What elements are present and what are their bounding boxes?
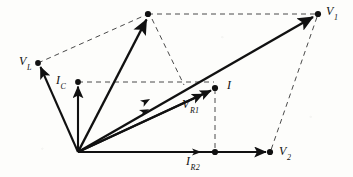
dash-vl-apex xyxy=(38,14,148,63)
dot-apex xyxy=(145,11,151,17)
label-ic: IC xyxy=(56,74,66,86)
phasor-diagram-canvas xyxy=(0,0,353,177)
dot-vl xyxy=(35,60,41,66)
label-v1: V1 xyxy=(326,5,338,17)
label-vr1: VR1 xyxy=(182,98,199,110)
label-i: I xyxy=(227,79,231,91)
label-ir2: IR2 xyxy=(186,155,200,167)
dot-v2 xyxy=(267,149,273,155)
dash-apex-junction xyxy=(152,19,184,85)
dot-ic xyxy=(75,79,81,85)
label-vl: VL xyxy=(19,55,31,67)
dot-i xyxy=(212,85,218,91)
dot-v1 xyxy=(315,11,321,17)
dot-ir2 xyxy=(212,149,218,155)
phasor-diagram-figure: VL IC V1 I VR1 IR2 V2 xyxy=(0,0,353,177)
mid-arrow-v1-vector xyxy=(140,96,152,107)
solid-phasor-vectors xyxy=(41,17,314,152)
label-v2: V2 xyxy=(279,145,291,157)
